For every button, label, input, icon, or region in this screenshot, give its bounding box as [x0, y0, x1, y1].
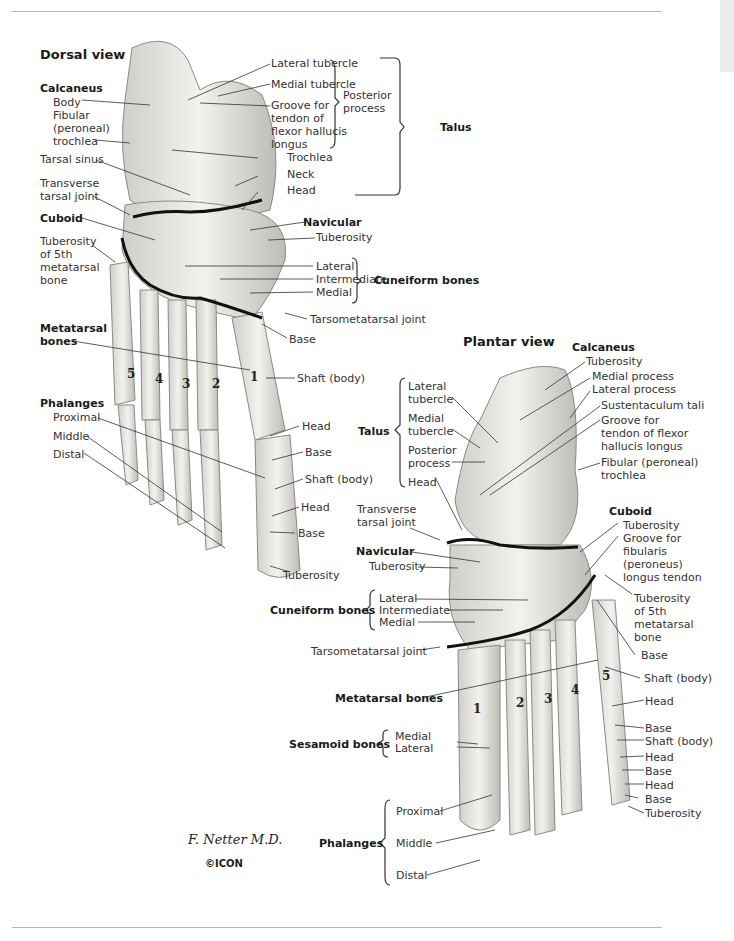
- dorsal-metatarsal-number-3: 3: [182, 377, 190, 391]
- dorsal-tarsal-sinus: Tarsal sinus: [40, 153, 104, 166]
- plantar-view-title: Plantar view: [463, 335, 555, 348]
- plantar-sesamoid-lateral: Lateral: [395, 742, 433, 755]
- plantar-metatarsal-number-3: 3: [544, 692, 552, 706]
- plantar-metatarsal-number-2: 2: [516, 696, 524, 710]
- dorsal-cuneiform-heading: Cuneiform bones: [374, 274, 479, 287]
- dorsal-talus-head: Head: [287, 184, 316, 197]
- plantar-prox-phalanx-shaft: Shaft (body): [645, 735, 713, 748]
- plantar-metatarsal-bones-heading: Metatarsal bones: [335, 692, 443, 705]
- dorsal-metatarsal-number-5: 5: [127, 367, 135, 381]
- dorsal-phalanges-proximal: Proximal: [53, 411, 100, 424]
- dorsal-calcaneus-heading: Calcaneus: [40, 82, 103, 95]
- plantar-cuneiform-heading: Cuneiform bones: [270, 604, 375, 617]
- plantar-tuberosity-5th-metatarsal: Tuberosity of 5th metatarsal bone: [634, 592, 694, 644]
- plantar-talus-posterior-process: Posterior process: [408, 444, 457, 470]
- plantar-mt5-shaft: Shaft (body): [644, 672, 712, 685]
- dorsal-mt1-head: Head: [302, 420, 331, 433]
- dorsal-phalanges-distal: Distal: [53, 448, 84, 461]
- dorsal-transverse-tarsal-joint: Transverse tarsal joint: [40, 177, 99, 203]
- plantar-cuboid-heading: Cuboid: [609, 505, 652, 518]
- plantar-metatarsal-number-4: 4: [571, 683, 579, 697]
- dorsal-talus-lateral-tubercle: Lateral tubercle: [271, 57, 358, 70]
- dorsal-phalanges-middle: Middle: [53, 430, 89, 443]
- dorsal-talus-posterior-process: Posterior process: [343, 89, 392, 115]
- plantar-sustentaculum-tali: Sustentaculum tali: [601, 399, 704, 412]
- plantar-distal-phalanx-base: Base: [645, 793, 672, 806]
- dorsal-talus-heading: Talus: [440, 121, 472, 134]
- plantar-mt5-base: Base: [641, 649, 668, 662]
- plantar-mt5-head: Head: [645, 695, 674, 708]
- dorsal-tuberosity-5th-metatarsal: Tuberosity of 5th metatarsal bone: [40, 235, 100, 287]
- plantar-talus-lateral-tubercle: Lateral tubercle: [408, 380, 453, 406]
- dorsal-cuneiform-medial: Medial: [316, 286, 352, 299]
- dorsal-distal-phalanx-tuberosity: Tuberosity: [283, 569, 339, 582]
- dorsal-phalanges-heading: Phalanges: [40, 397, 104, 410]
- dorsal-view-title: Dorsal view: [40, 48, 125, 61]
- netter-signature: F. Netter M.D.: [188, 832, 282, 847]
- plantar-transverse-tarsal-joint: Transverse tarsal joint: [357, 503, 416, 529]
- plantar-prox-phalanx-base: Base: [645, 722, 672, 735]
- dorsal-mt1-base: Base: [289, 333, 316, 346]
- plantar-sesamoid-heading: Sesamoid bones: [289, 738, 390, 751]
- plantar-prox-phalanx-head: Head: [645, 751, 674, 764]
- plantar-cuboid-groove-fibularis: Groove for fibularis (peroneus) longus t…: [623, 532, 702, 584]
- dorsal-distal-phalanx-base: Base: [298, 527, 325, 540]
- plantar-cuneiform-medial: Medial: [379, 616, 415, 629]
- plantar-phalanges-middle: Middle: [396, 837, 432, 850]
- dorsal-prox-phalanx-shaft: Shaft (body): [305, 473, 373, 486]
- plantar-middle-phalanx-base: Base: [645, 765, 672, 778]
- plantar-distal-phalanx-tuberosity: Tuberosity: [645, 807, 701, 820]
- plantar-cuboid-tuberosity: Tuberosity: [623, 519, 679, 532]
- dorsal-navicular-tuberosity: Tuberosity: [316, 231, 372, 244]
- plantar-navicular-heading: Navicular: [356, 545, 415, 558]
- dorsal-metatarsal-number-4: 4: [155, 372, 163, 386]
- dorsal-prox-phalanx-head: Head: [301, 501, 330, 514]
- dorsal-metatarsal-number-2: 2: [212, 377, 220, 391]
- dorsal-cuboid-heading: Cuboid: [40, 212, 83, 225]
- plantar-groove-fhl: Groove for tendon of flexor hallucis lon…: [601, 414, 688, 453]
- dorsal-navicular-heading: Navicular: [303, 216, 362, 229]
- plantar-middle-phalanx-head: Head: [645, 779, 674, 792]
- dorsal-mt1-shaft: Shaft (body): [297, 372, 365, 385]
- plantar-phalanges-heading: Phalanges: [319, 837, 383, 850]
- plantar-navicular-tuberosity: Tuberosity: [369, 560, 425, 573]
- dorsal-calcaneus-body: Body: [53, 96, 81, 109]
- plantar-fibular-trochlea: Fibular (peroneal) trochlea: [601, 456, 698, 482]
- plantar-tarsometatarsal-joint: Tarsometatarsal joint: [311, 645, 427, 658]
- dorsal-metatarsal-bones-heading: Metatarsal bones: [40, 322, 107, 348]
- icon-publisher-logo: ©ICON: [205, 858, 243, 869]
- plantar-talus-medial-tubercle: Medial tubercle: [408, 412, 453, 438]
- dorsal-talus-neck: Neck: [287, 168, 314, 181]
- plantar-calcaneus-medial-process: Medial process: [592, 370, 674, 383]
- plantar-metatarsal-number-5: 5: [602, 669, 610, 683]
- dorsal-prox-phalanx-base: Base: [305, 446, 332, 459]
- plantar-phalanges-proximal: Proximal: [396, 805, 443, 818]
- plantar-calcaneus-tuberosity: Tuberosity: [586, 355, 642, 368]
- dorsal-fibular-trochlea: Fibular (peroneal) trochlea: [53, 109, 110, 148]
- dorsal-cuneiform-lateral: Lateral: [316, 260, 354, 273]
- plantar-talus-head: Head: [408, 476, 437, 489]
- dorsal-talus-trochlea: Trochlea: [287, 151, 333, 164]
- dorsal-tarsometatarsal-joint: Tarsometatarsal joint: [310, 313, 426, 326]
- plantar-calcaneus-lateral-process: Lateral process: [592, 383, 676, 396]
- dorsal-metatarsal-number-1: 1: [250, 370, 258, 384]
- plantar-phalanges-distal: Distal: [396, 869, 427, 882]
- dorsal-talus-groove-fhl: Groove for tendon of flexor hallucis lon…: [271, 99, 347, 151]
- plantar-calcaneus-heading: Calcaneus: [572, 341, 635, 354]
- plantar-talus-heading: Talus: [358, 425, 390, 438]
- plantar-metatarsal-number-1: 1: [473, 702, 481, 716]
- brackets: [330, 58, 405, 885]
